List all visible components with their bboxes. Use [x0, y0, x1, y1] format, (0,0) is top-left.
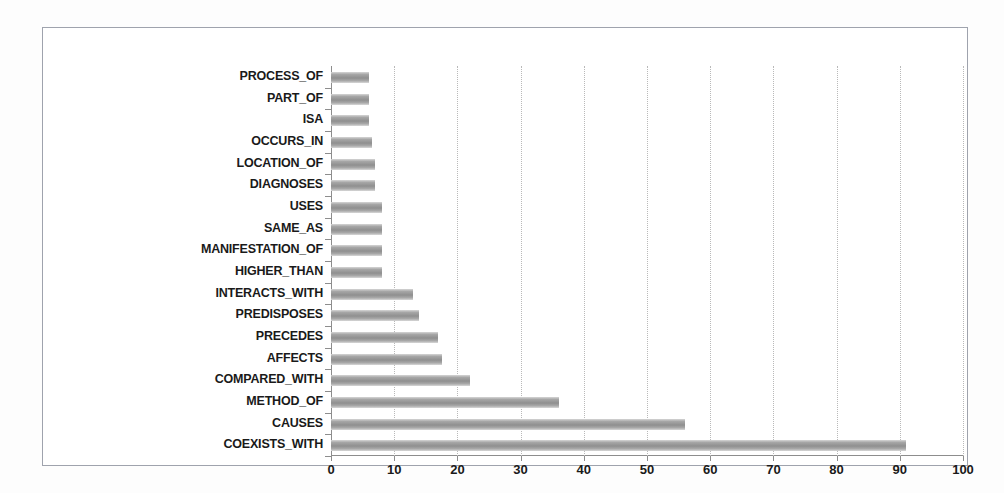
- bar-row: [331, 196, 963, 218]
- bar-interacts-with: [331, 289, 413, 300]
- bar-isa: [331, 115, 369, 126]
- bar-row: [331, 283, 963, 305]
- category-label-affects: AFFECTS: [73, 348, 323, 370]
- bar-row: [331, 369, 963, 391]
- category-label-method-of: METHOD_OF: [73, 391, 323, 413]
- x-tick-label-50: 50: [640, 462, 654, 477]
- category-label-causes: CAUSES: [73, 413, 323, 435]
- x-tick-label-0: 0: [327, 462, 334, 477]
- bar-predisposes: [331, 310, 419, 321]
- bar-row: [331, 304, 963, 326]
- bar-compared-with: [331, 375, 470, 386]
- x-tick-label-70: 70: [766, 462, 780, 477]
- category-label-precedes: PRECEDES: [73, 326, 323, 348]
- chart-frame: PROCESS_OFPART_OFISAOCCURS_INLOCATION_OF…: [42, 27, 968, 466]
- category-label-higher-than: HIGHER_THAN: [73, 261, 323, 283]
- bar-process-of: [331, 72, 369, 83]
- category-label-isa: ISA: [73, 109, 323, 131]
- x-tick-label-20: 20: [450, 462, 464, 477]
- bar-uses: [331, 202, 382, 213]
- bar-higher-than: [331, 267, 382, 278]
- bar-occurs-in: [331, 137, 372, 148]
- category-label-location-of: LOCATION_OF: [73, 153, 323, 175]
- bar-method-of: [331, 397, 559, 408]
- bar-affects: [331, 354, 442, 365]
- bar-row: [331, 109, 963, 131]
- bar-row: [331, 348, 963, 370]
- bar-coexists-with: [331, 440, 906, 451]
- x-tick-100: [963, 456, 964, 461]
- category-label-interacts-with: INTERACTS_WITH: [73, 283, 323, 305]
- bar-row: [331, 413, 963, 435]
- bar-part-of: [331, 94, 369, 105]
- x-tick-label-60: 60: [703, 462, 717, 477]
- category-label-occurs-in: OCCURS_IN: [73, 131, 323, 153]
- bar-row: [331, 218, 963, 240]
- category-label-manifestation-of: MANIFESTATION_OF: [73, 239, 323, 261]
- bar-row: [331, 261, 963, 283]
- bar-diagnoses: [331, 180, 375, 191]
- bar-same-as: [331, 224, 382, 235]
- bar-location-of: [331, 159, 375, 170]
- bar-row: [331, 153, 963, 175]
- bar-precedes: [331, 332, 438, 343]
- bar-manifestation-of: [331, 245, 382, 256]
- category-label-process-of: PROCESS_OF: [73, 66, 323, 88]
- x-tick-label-30: 30: [513, 462, 527, 477]
- bar-row: [331, 66, 963, 88]
- y-axis-category-labels: PROCESS_OFPART_OFISAOCCURS_INLOCATION_OF…: [67, 66, 323, 456]
- category-label-uses: USES: [73, 196, 323, 218]
- bar-row: [331, 434, 963, 456]
- bar-row: [331, 131, 963, 153]
- category-label-same-as: SAME_AS: [73, 218, 323, 240]
- bar-row: [331, 88, 963, 110]
- x-tick-label-80: 80: [829, 462, 843, 477]
- plot-area: [331, 66, 963, 456]
- x-tick-label-10: 10: [387, 462, 401, 477]
- x-axis-tick-labels: 0102030405060708090100: [331, 456, 963, 482]
- category-label-compared-with: COMPARED_WITH: [73, 369, 323, 391]
- category-label-coexists-with: COEXISTS_WITH: [73, 434, 323, 456]
- bar-row: [331, 239, 963, 261]
- x-tick-label-100: 100: [952, 462, 974, 477]
- category-label-diagnoses: DIAGNOSES: [73, 174, 323, 196]
- x-tick-label-40: 40: [577, 462, 591, 477]
- bar-causes: [331, 419, 685, 430]
- gridline-100: [963, 66, 964, 456]
- x-tick-label-90: 90: [893, 462, 907, 477]
- category-label-part-of: PART_OF: [73, 88, 323, 110]
- bar-row: [331, 174, 963, 196]
- category-label-predisposes: PREDISPOSES: [73, 304, 323, 326]
- bar-row: [331, 391, 963, 413]
- bar-row: [331, 326, 963, 348]
